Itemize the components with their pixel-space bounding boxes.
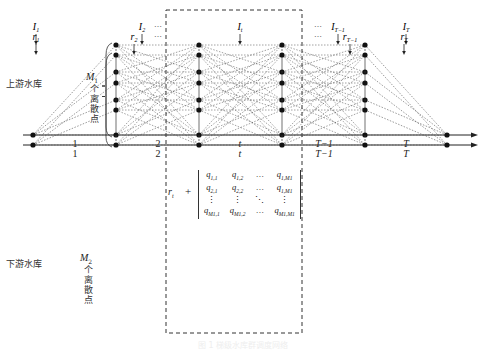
matrix-row: qM1,1qM1,2···qM1,M1 — [199, 206, 301, 219]
lower-period-label: t — [239, 148, 242, 159]
lower-state-node — [362, 52, 367, 57]
upper-state-node — [362, 42, 367, 47]
matrix-cell: ⋱ — [250, 196, 269, 206]
upper-reservoir-label: 上游水库 — [6, 80, 42, 89]
upper-inflow-label: I2 — [138, 21, 145, 33]
lower-ellipsis: … — [154, 30, 162, 39]
matrix-cell: q1,M1 — [269, 170, 300, 183]
lower-state-node — [196, 107, 201, 112]
matrix-row: ⋮⋮⋱⋮ — [199, 196, 301, 206]
lower-period-label: T — [403, 148, 410, 159]
matrix-cell: qM1,M1 — [269, 206, 300, 219]
matrix-cell: q1,2 — [225, 170, 251, 183]
lower-ellipsis: … — [314, 30, 322, 39]
lower-state-node — [113, 142, 118, 147]
lower-state-node — [196, 52, 201, 57]
lower-state-node — [279, 142, 284, 147]
upper-ellipsis: … — [314, 20, 322, 29]
lower-state-node — [196, 80, 201, 85]
matrix-cell: qM1,1 — [199, 206, 225, 219]
matrix-body: q1,1q1,2···q1,M1q2,1q2,2···q1,M1⋮⋮⋱⋮qM1,… — [198, 170, 301, 219]
upper-state-node — [279, 42, 284, 47]
upper-start-node — [30, 132, 35, 137]
matrix-cell: qM1,2 — [225, 206, 251, 219]
lower-state-node — [113, 107, 118, 112]
lower-bracket-text: 个离散点 — [83, 265, 92, 305]
matrix-cell: ··· — [250, 206, 269, 219]
lower-state-node — [113, 80, 118, 85]
lower-state-node — [196, 142, 201, 147]
figure-caption: 图 1 梯级水库群调度网络 — [0, 339, 486, 350]
lower-start-node — [30, 142, 35, 147]
lower-state-node — [362, 80, 367, 85]
lower-state-node — [279, 52, 284, 57]
lower-period-label: 1 — [73, 148, 78, 159]
lower-state-node — [362, 107, 367, 112]
matrix-prefix: rt — [168, 186, 174, 199]
lower-period-label: T−1 — [315, 148, 332, 159]
upper-state-node — [196, 42, 201, 47]
upper-state-node — [113, 42, 118, 47]
lower-state-node — [279, 107, 284, 112]
matrix-cell: ⋮ — [225, 196, 251, 206]
lower-end-node — [444, 142, 449, 147]
upper-ellipsis: … — [154, 20, 162, 29]
matrix-plus: + — [185, 185, 191, 197]
lower-period-label: 2 — [156, 148, 161, 159]
matrix-cell: ··· — [250, 170, 269, 183]
upper-axis-arrow-icon — [471, 133, 478, 138]
lower-axis-arrow-icon — [471, 143, 478, 148]
upper-end-node — [444, 132, 449, 137]
matrix-cell: ⋮ — [199, 196, 225, 206]
matrix-cell: q1,1 — [199, 170, 225, 183]
lower-state-node — [279, 80, 284, 85]
upper-inflow-label: It — [236, 21, 242, 33]
lower-state-node — [113, 52, 118, 57]
lower-reservoir-label: 下游水库 — [6, 260, 42, 269]
lower-inflow-label: r2 — [131, 31, 138, 43]
lower-bracket-label: M2 — [80, 253, 92, 265]
lower-state-node — [362, 142, 367, 147]
lower-inflow-label: rT−1 — [343, 31, 357, 43]
upper-bracket-text: 个离散点 — [89, 84, 98, 124]
matrix-row: q1,1q1,2···q1,M1 — [199, 170, 301, 183]
upper-bracket — [106, 43, 112, 137]
upper-bracket-label: M1 — [86, 72, 98, 84]
